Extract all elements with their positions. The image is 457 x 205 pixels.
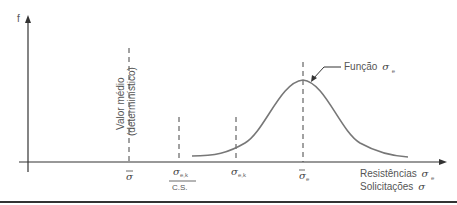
- x-axis-label-resistances: Resistências σ e: [360, 168, 435, 181]
- svg-text:e,k: e,k: [238, 172, 247, 178]
- svg-text:C.S.: C.S.: [172, 183, 188, 192]
- function-leader-line: [313, 67, 341, 79]
- tick-allowable-stress: σ e,k C.S.: [169, 166, 196, 192]
- x-axis-arrow-icon: [439, 159, 447, 165]
- svg-text:Valor médio: Valor médio: [115, 77, 126, 130]
- svg-text:(determinístico): (determinístico): [126, 67, 137, 136]
- diagram-canvas: f Valor médio (determinístico) Função σ …: [0, 0, 457, 205]
- x-axis-label-loads: Solicitações σ: [360, 181, 426, 192]
- mean-value-label: Valor médio (determinístico): [115, 67, 137, 136]
- tick-characteristic-stress: σ e,k: [231, 166, 247, 178]
- svg-text:e,k: e,k: [180, 172, 189, 178]
- svg-text:σ: σ: [126, 171, 134, 182]
- y-axis-arrow-icon: [25, 15, 31, 23]
- y-axis-label: f: [17, 13, 20, 24]
- tick-mean-load: σ: [126, 171, 134, 182]
- distribution-curve: [192, 80, 408, 157]
- svg-text:e: e: [306, 176, 310, 182]
- function-label: Função σ e: [344, 61, 396, 74]
- tick-mean-resistance: σ e: [299, 170, 310, 182]
